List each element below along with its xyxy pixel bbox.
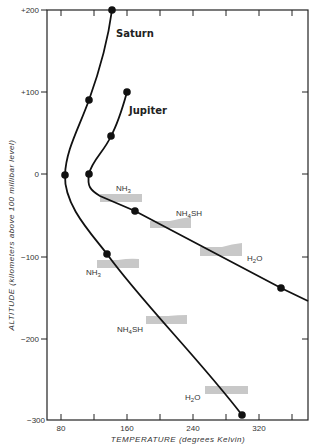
saturn-nh3-cloud [97,259,139,268]
y-tick-label: −300 [27,416,46,425]
bottom-ticks [61,414,292,420]
saturn-h2o-cloud [205,386,248,394]
saturn-label: Saturn [116,28,154,39]
top-ticks [61,10,292,16]
x-tick-label: 160 [120,424,134,433]
x-axis-title: TEMPERATURE (degrees Kelvin) [111,435,245,444]
x-tick-label: 320 [252,424,266,433]
jupiter-label: Jupiter [128,105,167,116]
jupiter-nh4sh-label: NH4SH [176,209,202,219]
x-tick-label: 80 [57,424,66,433]
saturn-h2o-label: H2O [185,393,200,403]
y-tick-label: +100 [21,88,40,97]
y-tick-label: −200 [21,335,40,344]
x-tick-label: 240 [186,424,200,433]
saturn-nh4sh-cloud [146,315,187,324]
jupiter-nh3-label: NH3 [116,184,132,194]
right-ticks [302,92,308,339]
saturn-nh3-label: NH3 [86,268,102,278]
y-tick-label: +200 [21,6,40,15]
y-tick-label: 0 [35,170,40,179]
jupiter-cloud-layers [100,194,242,256]
temperature-altitude-chart: +200 +100 0 −100 −200 −300 80 160 240 32… [0,0,324,448]
left-ticks [41,10,47,339]
saturn-data-points [61,6,246,419]
saturn-nh4sh-label: NH4SH [117,325,143,335]
y-tick-label: −100 [21,253,40,262]
saturn-profile-line [65,10,242,415]
jupiter-h2o-label: H2O [247,254,262,264]
y-axis-title: ALTITUDE (kilometers above 100 millibar … [7,140,16,332]
